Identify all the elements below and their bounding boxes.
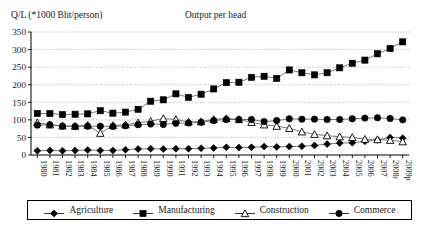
legend-item-manufacturing: Manufacturing <box>132 205 214 216</box>
square-filled-icon <box>337 65 343 71</box>
x-tick-label: 1990 <box>165 160 174 177</box>
diamond-filled-icon <box>185 145 192 152</box>
y-tick-label: 100 <box>12 115 26 125</box>
y-tick-labels: 050100150200250300350 <box>12 27 26 160</box>
diamond-filled-icon <box>261 143 268 150</box>
diamond-filled-icon <box>43 205 65 216</box>
x-tick-label: 2005 <box>354 160 363 177</box>
x-tick-label: 1984 <box>89 160 98 177</box>
circle-filled-icon <box>274 117 280 123</box>
diamond-filled-icon <box>97 147 104 154</box>
data-series-group <box>34 39 407 155</box>
square-filled-icon <box>85 111 91 117</box>
legend-label: Construction <box>260 205 309 215</box>
diamond-filled-icon <box>59 147 66 154</box>
diamond-filled-icon <box>135 146 142 153</box>
circle-filled-icon <box>299 116 305 122</box>
x-tick-label: 1985 <box>102 160 111 177</box>
x-tick-label: 1998 <box>265 160 274 177</box>
diamond-filled-icon <box>248 144 255 151</box>
x-tick-label: 1994 <box>215 160 224 177</box>
circle-filled-icon <box>311 116 317 122</box>
legend-label: Manufacturing <box>158 205 214 215</box>
triangle-open-icon <box>234 205 256 216</box>
y-tick-label: 150 <box>12 98 26 108</box>
x-tick-label: 2004 <box>341 160 350 177</box>
x-tick-label: 2006 <box>366 160 375 177</box>
square-filled-icon <box>299 70 305 76</box>
circle-filled-icon <box>362 115 368 121</box>
diamond-filled-icon <box>198 145 205 152</box>
diamond-filled-icon <box>160 146 167 153</box>
y-tick-label: 0 <box>21 150 26 160</box>
circle-filled-icon <box>135 122 141 128</box>
square-filled-icon <box>185 94 191 100</box>
diamond-filled-icon <box>336 140 343 147</box>
diamond-filled-icon <box>324 141 331 148</box>
x-tick-label: 1980 <box>39 160 48 177</box>
x-tick-label: 1989 <box>152 160 161 177</box>
circle-filled-icon <box>328 205 350 216</box>
diamond-filled-icon <box>223 144 230 151</box>
square-filled-icon <box>286 67 292 73</box>
circle-filled-icon <box>387 115 393 121</box>
circle-filled-icon <box>47 122 53 128</box>
legend-label: Agriculture <box>69 205 113 215</box>
x-tick-label: 2009p <box>404 160 413 181</box>
diamond-filled-icon <box>147 145 154 152</box>
diamond-filled-icon <box>298 143 305 150</box>
square-filled-icon <box>349 60 355 66</box>
circle-filled-icon <box>223 116 229 122</box>
x-tick-label: 1987 <box>127 160 136 177</box>
square-filled-icon <box>198 91 204 97</box>
diamond-filled-icon <box>109 147 116 154</box>
x-tick-label: 2001 <box>303 160 312 177</box>
diamond-filled-icon <box>46 147 53 154</box>
x-tick-label: 2003 <box>328 160 337 177</box>
square-filled-icon <box>236 79 242 85</box>
chart-legend: Agriculture Manufacturing Construction C… <box>27 200 412 220</box>
y-tick-label: 250 <box>12 62 26 72</box>
circle-filled-icon <box>324 116 330 122</box>
triangle-open-icon <box>160 115 167 122</box>
triangle-open-icon <box>298 128 305 135</box>
x-tick-label: 1986 <box>114 160 123 177</box>
square-filled-icon <box>160 97 166 103</box>
series-line <box>37 42 402 115</box>
circle-filled-icon <box>97 123 103 129</box>
square-filled-icon <box>223 80 229 86</box>
square-filled-icon <box>122 109 128 115</box>
x-tick-label: 2007 <box>379 160 388 177</box>
square-filled-icon <box>324 70 330 76</box>
y-tick-label: 50 <box>17 133 27 143</box>
diamond-filled-icon <box>84 147 91 154</box>
legend-item-agriculture: Agriculture <box>43 205 113 216</box>
chart-figure: Q/L (*1000 Bht/person) Output per head 0… <box>0 0 427 237</box>
x-tick-label: 2008r <box>391 160 400 180</box>
circle-filled-icon <box>198 119 204 125</box>
circle-filled-icon <box>349 116 355 122</box>
y-tick-label: 300 <box>12 45 26 55</box>
x-tick-label: 1991 <box>177 160 186 177</box>
series-line <box>37 137 402 150</box>
circle-filled-icon <box>374 115 380 121</box>
square-filled-icon <box>173 91 179 97</box>
x-tick-label: 1988 <box>139 160 148 177</box>
circle-filled-icon <box>286 116 292 122</box>
x-tick-label: 1992 <box>190 160 199 177</box>
legend-item-construction: Construction <box>234 205 309 216</box>
y-tick-label: 200 <box>12 80 26 90</box>
x-tick-label: 2002 <box>316 160 325 177</box>
x-tick-labels: 1980198119821983198419851986198719881989… <box>39 160 413 181</box>
square-filled-icon <box>248 74 254 80</box>
circle-filled-icon <box>248 116 254 122</box>
circle-filled-icon <box>400 117 406 123</box>
square-filled-icon <box>274 75 280 81</box>
square-filled-icon <box>211 86 217 92</box>
square-filled-icon <box>72 111 78 117</box>
diamond-filled-icon <box>210 144 217 151</box>
x-tick-label: 1995 <box>228 160 237 177</box>
legend-label: Commerce <box>354 205 396 215</box>
circle-filled-icon <box>72 123 78 129</box>
square-filled-icon <box>59 111 65 117</box>
